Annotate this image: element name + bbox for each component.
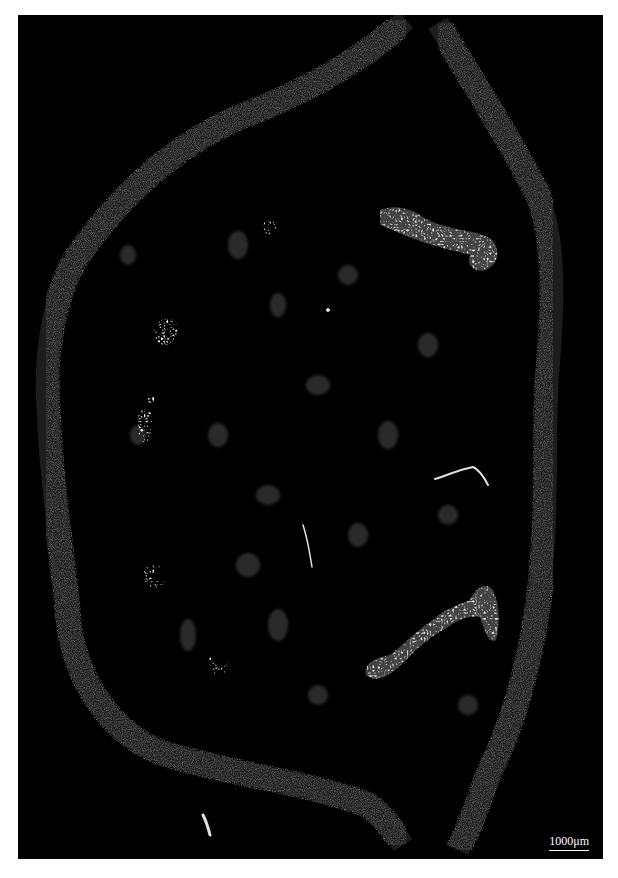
micrograph-frame: 1000μm <box>18 15 603 859</box>
large-vascular-bundle-lower-right <box>366 586 499 679</box>
tissue-section <box>18 15 603 859</box>
small-bundle-mid-left-dot <box>148 395 154 403</box>
outer-epidermal-band <box>47 20 553 850</box>
scale-bar-line <box>549 850 589 851</box>
small-bundle-upper-left <box>154 318 178 345</box>
fiber-strand-center <box>303 525 312 567</box>
large-vascular-bundle-upper-right <box>380 207 497 270</box>
fiber-strand-bottom <box>203 815 210 835</box>
small-bundle-bottom-left <box>208 657 230 675</box>
scale-bar-label: 1000μm <box>549 834 589 849</box>
round-bundle-top <box>262 220 276 234</box>
fiber-strand-right <box>435 467 488 485</box>
small-bundles-left <box>138 220 276 675</box>
small-bundle-lower-left <box>144 563 165 588</box>
scale-bar: 1000μm <box>549 834 589 851</box>
